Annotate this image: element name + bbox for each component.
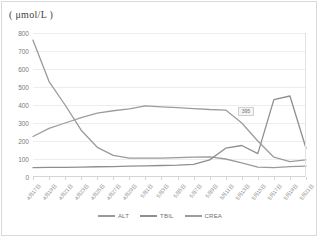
y-axis-unit-title: ( μmol/L ) (9, 9, 53, 20)
y-axis-tick-label: 100 (18, 156, 29, 163)
plot-right-border (305, 33, 306, 177)
legend-item-alt[interactable]: ALT (98, 213, 129, 219)
x-axis-tick-mark (129, 177, 130, 180)
y-axis-tick-label: 300 (18, 120, 29, 127)
series-line-crea (33, 106, 306, 162)
x-axis-tick-mark (210, 177, 211, 180)
x-axis-tick-mark (306, 177, 307, 180)
x-axis-tick-mark (49, 177, 50, 180)
x-axis-tick-mark (65, 177, 66, 180)
x-axis-tick-mark (113, 177, 114, 180)
legend-label: ALT (118, 213, 129, 219)
chart-legend: ALTTBILCREA (0, 213, 320, 219)
x-axis-tick-mark (161, 177, 162, 180)
y-axis-tick-label: 500 (18, 84, 29, 91)
legend-item-tbil[interactable]: TBIL (140, 213, 173, 219)
y-axis-tick-label: 600 (18, 66, 29, 73)
x-axis-tick-mark (145, 177, 146, 180)
x-axis-tick-mark (258, 177, 259, 180)
x-axis-tick-mark (97, 177, 98, 180)
series-lines (33, 33, 306, 177)
y-axis-tick-label: 400 (18, 102, 29, 109)
x-axis-tick-mark (178, 177, 179, 180)
x-axis-tick-mark (81, 177, 82, 180)
y-axis-tick-label: 800 (18, 30, 29, 37)
legend-label: TBIL (160, 213, 173, 219)
legend-label: CREA (205, 213, 222, 219)
x-axis-tick-mark (274, 177, 275, 180)
y-axis-tick-label: 200 (18, 138, 29, 145)
data-point-label: 395 (238, 107, 254, 116)
x-axis-tick-mark (33, 177, 34, 180)
legend-color-swatch (140, 215, 157, 216)
x-axis-tick-mark (226, 177, 227, 180)
x-axis-tick-mark (290, 177, 291, 180)
legend-item-crea[interactable]: CREA (185, 213, 222, 219)
chart-figure: ( μmol/L ) 8007006005004003002001000 4月1… (0, 0, 320, 239)
plot-area: 8007006005004003002001000 4月17日4月19日4月21… (33, 33, 306, 177)
y-axis-tick-label: 700 (18, 48, 29, 55)
y-axis-tick-label: 0 (25, 174, 29, 181)
x-axis-tick-mark (242, 177, 243, 180)
legend-color-swatch (185, 215, 202, 216)
x-axis-tick-mark (194, 177, 195, 180)
legend-color-swatch (98, 215, 115, 216)
